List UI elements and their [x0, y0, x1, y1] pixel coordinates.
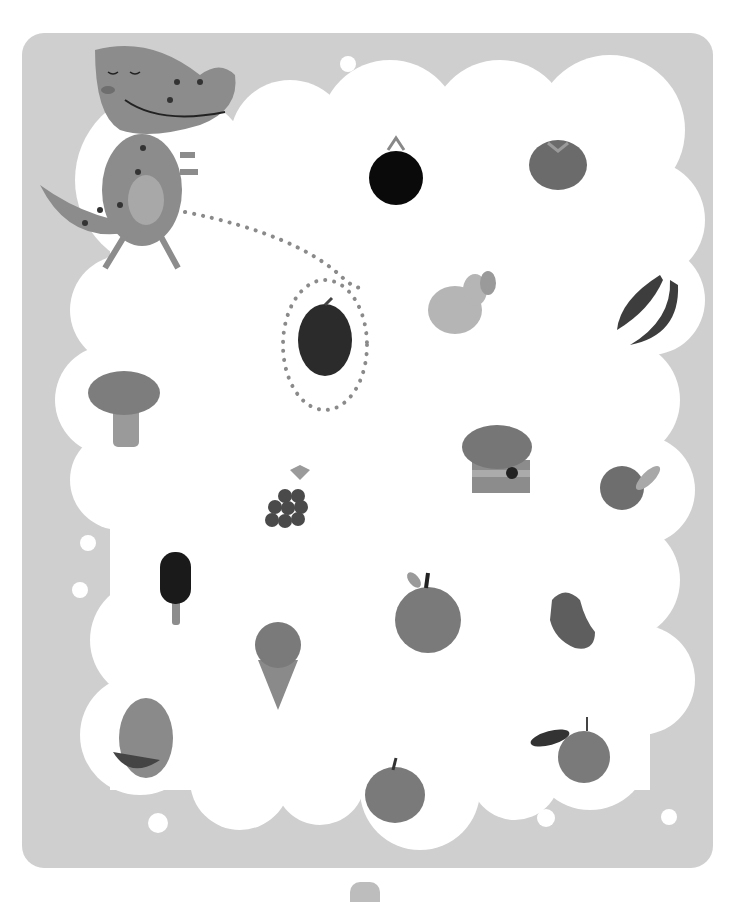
tomato-item[interactable] — [529, 140, 587, 190]
page-tab — [350, 882, 380, 902]
cupcake-item[interactable] — [462, 425, 532, 493]
